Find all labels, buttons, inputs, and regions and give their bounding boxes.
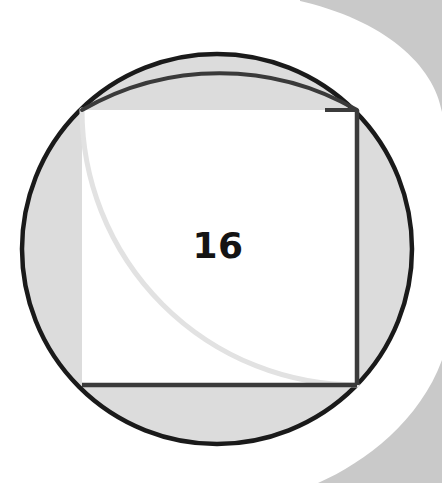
figure-page: 16 — [0, 0, 442, 483]
area-label: 16 — [192, 225, 243, 266]
geometry-figure: 16 — [0, 0, 442, 483]
